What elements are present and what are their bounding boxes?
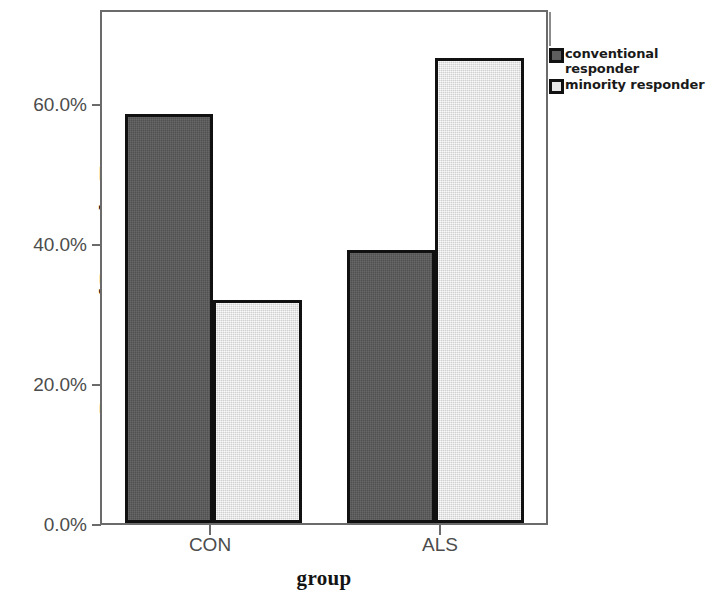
legend-label-conventional: conventional responder [565,46,658,76]
legend-label-minority: minority responder [565,77,704,92]
x-axis-title: group [100,566,548,591]
plot-area [100,10,548,525]
legend-divider [549,12,551,46]
x-tick-label-con: CON [150,534,270,556]
y-tick-label-0: 0.0% [0,514,87,536]
y-tick-mark-0 [92,524,101,526]
bar-con-conventional [125,114,214,523]
legend: conventional responder minority responde… [549,46,713,95]
legend-item-conventional-responder: conventional responder [549,46,713,76]
light-gray-swatch-icon [549,79,564,94]
bar-chart-figure: Percentage of Responder Type 60.0% 40.0%… [0,0,713,597]
y-tick-mark-60 [92,104,101,106]
bar-als-minority [435,58,524,523]
legend-label-conventional-line2: responder [565,61,639,76]
x-tick-label-als: ALS [380,534,500,556]
y-tick-label-60: 60.0% [0,94,87,116]
bar-con-minority [213,300,302,523]
dark-gray-swatch-icon [549,48,564,63]
y-tick-label-40: 40.0% [0,234,87,256]
bar-als-conventional [347,250,436,523]
y-tick-mark-20 [92,384,101,386]
legend-item-minority-responder: minority responder [549,77,713,94]
y-tick-mark-40 [92,244,101,246]
y-tick-label-20: 20.0% [0,374,87,396]
legend-label-conventional-line1: conventional [565,46,658,61]
